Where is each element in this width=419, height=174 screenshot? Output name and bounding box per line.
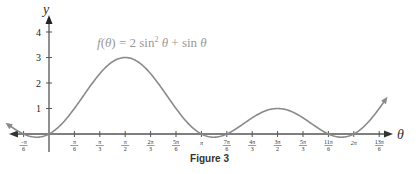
svg-text:5π: 5π bbox=[173, 139, 179, 145]
svg-text:π: π bbox=[200, 140, 204, 146]
svg-text:6: 6 bbox=[327, 146, 330, 152]
svg-text:3: 3 bbox=[302, 146, 305, 152]
x-tick-label: π bbox=[200, 140, 204, 146]
svg-text:3: 3 bbox=[149, 146, 152, 152]
function-curve bbox=[8, 58, 386, 138]
svg-text:−π: −π bbox=[20, 139, 26, 145]
svg-text:6: 6 bbox=[73, 146, 76, 152]
x-tick-label: 2π3 bbox=[147, 139, 155, 152]
curve-start-arrow-icon bbox=[5, 123, 12, 129]
y-tick-label: 3 bbox=[36, 52, 41, 63]
figure-caption: Figure 3 bbox=[0, 153, 419, 164]
x-axis-right-arrow-icon bbox=[384, 131, 393, 138]
svg-text:2: 2 bbox=[276, 146, 279, 152]
y-tick-label: 2 bbox=[36, 78, 41, 89]
curve-end-arrow-icon bbox=[381, 97, 387, 104]
svg-text:3: 3 bbox=[251, 146, 254, 152]
svg-text:2π: 2π bbox=[148, 139, 154, 145]
svg-text:2: 2 bbox=[124, 146, 127, 152]
svg-text:π: π bbox=[124, 139, 127, 145]
x-axis-left-arrow-icon bbox=[9, 131, 18, 138]
svg-text:π: π bbox=[73, 139, 76, 145]
y-axis-label: y bbox=[41, 2, 50, 17]
x-tick-label: 4π3 bbox=[248, 139, 256, 152]
x-tick-label: π3 bbox=[96, 139, 104, 152]
svg-text:π: π bbox=[98, 139, 101, 145]
svg-text:6: 6 bbox=[225, 146, 228, 152]
svg-text:6: 6 bbox=[378, 146, 381, 152]
svg-text:3π: 3π bbox=[275, 139, 281, 145]
x-tick-label: 13π6 bbox=[375, 139, 384, 152]
svg-text:6: 6 bbox=[175, 146, 178, 152]
x-tick-label: π2 bbox=[121, 139, 129, 152]
x-tick-label: 5π3 bbox=[299, 139, 307, 152]
svg-text:13π: 13π bbox=[375, 139, 384, 145]
x-tick-label: 11π6 bbox=[324, 139, 333, 152]
x-tick-label: −π6 bbox=[20, 139, 28, 152]
svg-text:4π: 4π bbox=[249, 139, 255, 145]
y-axis: 1234 y bbox=[36, 2, 53, 152]
x-tick-label: 5π6 bbox=[172, 139, 180, 152]
x-axis-label: θ bbox=[397, 127, 404, 142]
x-tick-label: π6 bbox=[70, 139, 78, 152]
svg-text:7π: 7π bbox=[224, 139, 230, 145]
y-tick-label: 4 bbox=[36, 27, 41, 38]
svg-text:3: 3 bbox=[98, 146, 101, 152]
function-equation-label: f(θ) = 2 sin2 θ + sin θ bbox=[97, 35, 207, 50]
y-tick-label: 1 bbox=[36, 103, 41, 114]
x-axis: −π6π6π3π22π35π6π7π64π33π25π311π62π13π6 θ bbox=[9, 127, 404, 152]
svg-text:11π: 11π bbox=[324, 139, 333, 145]
svg-text:6: 6 bbox=[22, 146, 25, 152]
function-graph: −π6π6π3π22π35π6π7π64π33π25π311π62π13π6 θ… bbox=[0, 0, 419, 174]
x-tick-label: 7π6 bbox=[223, 139, 231, 152]
x-tick-label: 3π2 bbox=[274, 139, 282, 152]
svg-text:5π: 5π bbox=[300, 139, 306, 145]
x-tick-label: 2π bbox=[351, 140, 358, 146]
svg-text:2π: 2π bbox=[351, 140, 358, 146]
